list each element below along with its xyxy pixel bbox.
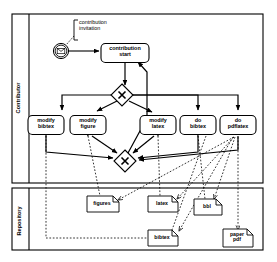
task-contribution-start[interactable] xyxy=(101,44,149,63)
lane-label-contributor: Contributor xyxy=(15,68,21,128)
envelope-icon xyxy=(57,48,65,53)
message-start-event[interactable] xyxy=(53,43,68,58)
data-object-bbl[interactable] xyxy=(194,199,222,215)
bpmn-diagram xyxy=(0,0,277,262)
pool-contributor xyxy=(12,14,263,183)
data-object-paper-pdf[interactable] xyxy=(223,229,253,247)
data-object-figures[interactable] xyxy=(87,196,119,212)
task-do-bibtex[interactable] xyxy=(180,116,216,135)
lane-label-repository: Repository xyxy=(16,194,22,249)
task-do-pdflatex[interactable] xyxy=(220,116,256,135)
task-modify-bibtex[interactable] xyxy=(28,116,64,135)
task-modify-latex[interactable] xyxy=(140,116,176,135)
task-modify-figure[interactable] xyxy=(70,116,106,135)
data-object-bibtex[interactable] xyxy=(148,230,178,246)
diagram-canvas: Contributor Repository contribution invi… xyxy=(0,0,277,262)
data-object-latex[interactable] xyxy=(148,196,178,212)
